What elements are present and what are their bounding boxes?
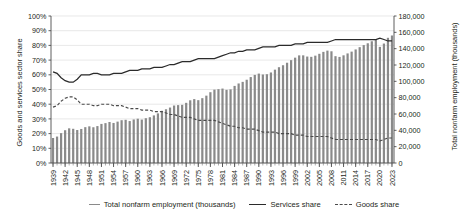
svg-text:20%: 20% bbox=[32, 129, 47, 138]
bar-series-total-nonfarm-employment bbox=[52, 35, 393, 163]
svg-text:100,000: 100,000 bbox=[399, 77, 425, 86]
svg-text:120,000: 120,000 bbox=[399, 61, 425, 70]
svg-text:1990: 1990 bbox=[254, 170, 263, 186]
svg-text:160,000: 160,000 bbox=[399, 28, 425, 37]
legend-item-goods-share: Goods share bbox=[335, 200, 399, 209]
svg-text:90%: 90% bbox=[32, 26, 47, 35]
svg-text:60,000: 60,000 bbox=[399, 110, 421, 119]
svg-text:60%: 60% bbox=[32, 70, 47, 79]
svg-text:1969: 1969 bbox=[170, 170, 179, 186]
svg-text:1984: 1984 bbox=[230, 170, 239, 186]
svg-text:1975: 1975 bbox=[194, 170, 203, 186]
svg-text:50%: 50% bbox=[32, 85, 47, 94]
svg-text:10%: 10% bbox=[32, 144, 47, 153]
svg-text:100%: 100% bbox=[28, 12, 47, 21]
y-axis-right-ticks: 020,00040,00060,00080,000100,000120,0001… bbox=[394, 12, 424, 168]
svg-text:2011: 2011 bbox=[339, 170, 348, 185]
svg-text:1954: 1954 bbox=[109, 170, 118, 186]
legend-label-total-nonfarm-employment: Total nonfarm employment (thousands) bbox=[104, 200, 236, 209]
svg-text:1993: 1993 bbox=[267, 170, 276, 186]
svg-text:1972: 1972 bbox=[182, 170, 191, 186]
svg-text:2014: 2014 bbox=[351, 170, 360, 186]
y-axis-left-ticks: 0%10%20%30%40%50%60%70%80%90%100% bbox=[28, 12, 51, 168]
legend-label-services-share: Services share bbox=[270, 200, 320, 209]
svg-text:0%: 0% bbox=[36, 159, 47, 168]
chart-plot-area: 0%10%20%30%40%50%60%70%80%90%100% 020,00… bbox=[0, 0, 466, 223]
svg-text:2017: 2017 bbox=[363, 170, 372, 186]
svg-text:1957: 1957 bbox=[121, 170, 130, 186]
svg-text:0: 0 bbox=[399, 159, 403, 168]
svg-text:1981: 1981 bbox=[218, 170, 227, 186]
svg-text:1999: 1999 bbox=[291, 170, 300, 186]
svg-text:40%: 40% bbox=[32, 100, 47, 109]
svg-text:2008: 2008 bbox=[327, 170, 336, 186]
svg-text:30%: 30% bbox=[32, 115, 47, 124]
svg-text:180,000: 180,000 bbox=[399, 12, 425, 21]
svg-text:1987: 1987 bbox=[242, 170, 251, 186]
svg-text:40,000: 40,000 bbox=[399, 126, 421, 135]
solid-line-swatch-icon bbox=[249, 204, 266, 205]
svg-text:2023: 2023 bbox=[388, 170, 397, 186]
svg-text:2005: 2005 bbox=[315, 170, 324, 186]
svg-text:1996: 1996 bbox=[279, 170, 288, 186]
svg-text:1951: 1951 bbox=[97, 170, 106, 186]
chart-container: Goods and services sector share Total no… bbox=[0, 0, 466, 223]
svg-text:1939: 1939 bbox=[49, 170, 58, 186]
svg-text:1966: 1966 bbox=[158, 170, 167, 186]
svg-text:20,000: 20,000 bbox=[399, 142, 421, 151]
dashed-line-swatch-icon bbox=[335, 204, 352, 205]
svg-text:1948: 1948 bbox=[85, 170, 94, 186]
chart-legend: Total nonfarm employment (thousands) Ser… bbox=[44, 200, 444, 209]
svg-text:80,000: 80,000 bbox=[399, 93, 421, 102]
svg-text:1978: 1978 bbox=[206, 170, 215, 186]
svg-text:1963: 1963 bbox=[145, 170, 154, 186]
legend-item-total-nonfarm-employment: Total nonfarm employment (thousands) bbox=[89, 200, 236, 209]
legend-item-services-share: Services share bbox=[249, 200, 320, 209]
legend-label-goods-share: Goods share bbox=[356, 200, 399, 209]
svg-text:2020: 2020 bbox=[375, 170, 384, 186]
svg-text:140,000: 140,000 bbox=[399, 44, 425, 53]
svg-text:1960: 1960 bbox=[133, 170, 142, 186]
svg-text:80%: 80% bbox=[32, 41, 47, 50]
svg-text:70%: 70% bbox=[32, 56, 47, 65]
x-axis-ticks: 1939194219451948195119541957196019631966… bbox=[49, 163, 397, 186]
svg-text:2002: 2002 bbox=[303, 170, 312, 186]
svg-text:1945: 1945 bbox=[73, 170, 82, 186]
bar-swatch-icon bbox=[89, 204, 100, 205]
svg-text:1942: 1942 bbox=[61, 170, 70, 186]
